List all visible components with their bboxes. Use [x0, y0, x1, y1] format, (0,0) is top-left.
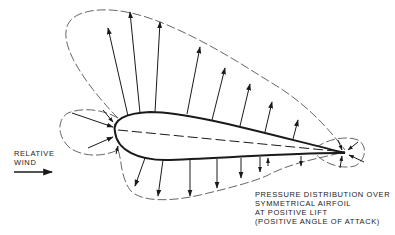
trailing-edge-arrows	[338, 140, 364, 168]
leading-edge-arrows	[72, 110, 118, 154]
caption-line-1: PRESSURE DISTRIBUTION OVER	[255, 190, 390, 199]
leading-edge-lobe	[60, 110, 118, 155]
wind-label-line-1: RELATIVE	[14, 149, 55, 158]
diagram-caption: PRESSURE DISTRIBUTION OVER SYMMETRICAL A…	[255, 190, 390, 226]
relative-wind-label: RELATIVE WIND	[14, 149, 55, 167]
caption-line-2: SYMMETRICAL AIRFOIL	[255, 199, 390, 208]
caption-line-3: AT POSITIVE LIFT	[255, 208, 390, 217]
caption-line-4: (POSITIVE ANGLE OF ATTACK)	[255, 217, 390, 226]
wind-label-line-2: WIND	[14, 158, 55, 167]
airfoil-outline	[115, 112, 345, 160]
